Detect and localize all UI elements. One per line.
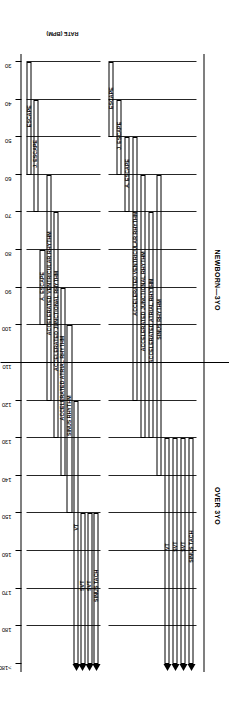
rate-tick-label: 130 (2, 439, 11, 445)
rhythm-band[interactable] (164, 438, 169, 664)
rhythm-label: ACCELERATED VENTRICULAR RHYTHM (46, 231, 51, 335)
rate-range-plot: >180180170160150140130120110100908070605… (0, 0, 229, 702)
rate-tick-label: 150 (2, 515, 11, 521)
rate-tick (15, 136, 21, 137)
rate-tick-label: >180 (0, 665, 11, 671)
gridline (26, 475, 100, 476)
gridline (26, 174, 100, 175)
rhythm-label: ACCELERATED VENTRICULAR RHYTHM (132, 212, 137, 316)
open-end-arrow-icon (179, 664, 187, 671)
gridline (26, 625, 100, 626)
rhythm-label: ACCELERATED JUNCTIONAL RHYTHM (140, 251, 145, 351)
gridline (108, 174, 196, 175)
gridline (108, 437, 196, 438)
rate-tick (15, 249, 21, 250)
rate-tick (15, 437, 21, 438)
gridline (108, 362, 196, 363)
rate-tick-label: 120 (2, 402, 11, 408)
rate-tick (15, 287, 21, 288)
gridline (108, 249, 196, 250)
rate-tick (15, 625, 21, 626)
rhythm-label: SINUS TACH (93, 570, 98, 602)
gridline (108, 287, 196, 288)
rate-tick-label: 30 (5, 63, 11, 69)
group-label-over-3yo: OVER 3YO (213, 487, 220, 525)
open-end-arrow-icon (171, 664, 179, 671)
gridline (26, 400, 100, 401)
gridline (108, 588, 196, 589)
rate-tick (15, 588, 21, 589)
rhythm-label: SVT (80, 581, 85, 591)
rhythm-label: SINUS RHYTHM (66, 395, 71, 436)
gridline (26, 550, 100, 551)
rate-tick-label: 60 (5, 176, 11, 182)
gridline (26, 437, 100, 438)
gridline (26, 249, 100, 250)
gridline (26, 362, 100, 363)
gridline (26, 99, 100, 100)
gridline (26, 212, 100, 213)
gridline (108, 324, 196, 325)
gridline (26, 513, 100, 514)
rate-tick (15, 61, 21, 62)
rhythm-label: VT (164, 543, 169, 550)
rhythm-label: SVT (87, 581, 92, 591)
rate-tick (15, 513, 21, 514)
rhythm-label: SINUS TACH (188, 530, 193, 562)
rate-tick-label: 80 (5, 251, 11, 257)
rate-tick-label: 50 (5, 138, 11, 144)
rhythm-label: SINUS RHYTHM (156, 299, 161, 340)
gridline (26, 324, 100, 325)
gridline (26, 136, 100, 137)
gridline (26, 287, 100, 288)
rate-tick (15, 174, 21, 175)
group-divider-horizontal (203, 54, 204, 672)
rate-tick (15, 400, 21, 401)
rate-tick (15, 324, 21, 325)
open-end-arrow-icon (163, 664, 171, 671)
group-label-newborn-3yo: NEWBORN—3YO (213, 250, 220, 311)
gridline (108, 136, 196, 137)
gridline (108, 550, 196, 551)
rate-tick-label: 90 (5, 289, 11, 295)
rate-tick (15, 99, 21, 100)
rate-tick-label: 180 (2, 627, 11, 633)
figure-canvas: >180180170160150140130120110100908070605… (0, 0, 229, 702)
rate-axis-line (20, 54, 21, 672)
gridline (108, 99, 196, 100)
rate-tick-label: 170 (2, 590, 11, 596)
rhythm-label: ACCELERATED ATRIAL RHYTHM (60, 336, 65, 421)
rate-tick (15, 663, 21, 664)
gridline (108, 513, 196, 514)
rate-tick-label: 40 (5, 101, 11, 107)
rate-tick-label: 110 (2, 364, 11, 370)
rate-tick (15, 212, 21, 213)
rate-axis-title: RATE (BPM) (46, 31, 78, 37)
gridline (108, 212, 196, 213)
rate-tick-label: 140 (2, 477, 11, 483)
gridline (26, 588, 100, 589)
rate-tick-label: 100 (2, 326, 11, 332)
rate-tick (15, 475, 21, 476)
rhythm-label: VT (73, 524, 78, 531)
rate-tick-label: 160 (2, 552, 11, 558)
gridline (108, 400, 196, 401)
rhythm-label: ACCELERATED ATRIAL RHYTHM (148, 279, 153, 364)
rhythm-label: ESCAPE (26, 105, 31, 127)
open-end-arrow-icon (187, 664, 195, 671)
gridline (26, 61, 100, 62)
rhythm-label: J. ESCAPE (33, 140, 38, 168)
rate-tick-label: 70 (5, 214, 11, 220)
open-end-arrow-icon (92, 664, 100, 671)
rate-tick (15, 550, 21, 551)
rotated-figure: >180180170160150140130120110100908070605… (0, 0, 229, 702)
gridline (108, 61, 196, 62)
gridline (108, 625, 196, 626)
gridline (108, 475, 196, 476)
